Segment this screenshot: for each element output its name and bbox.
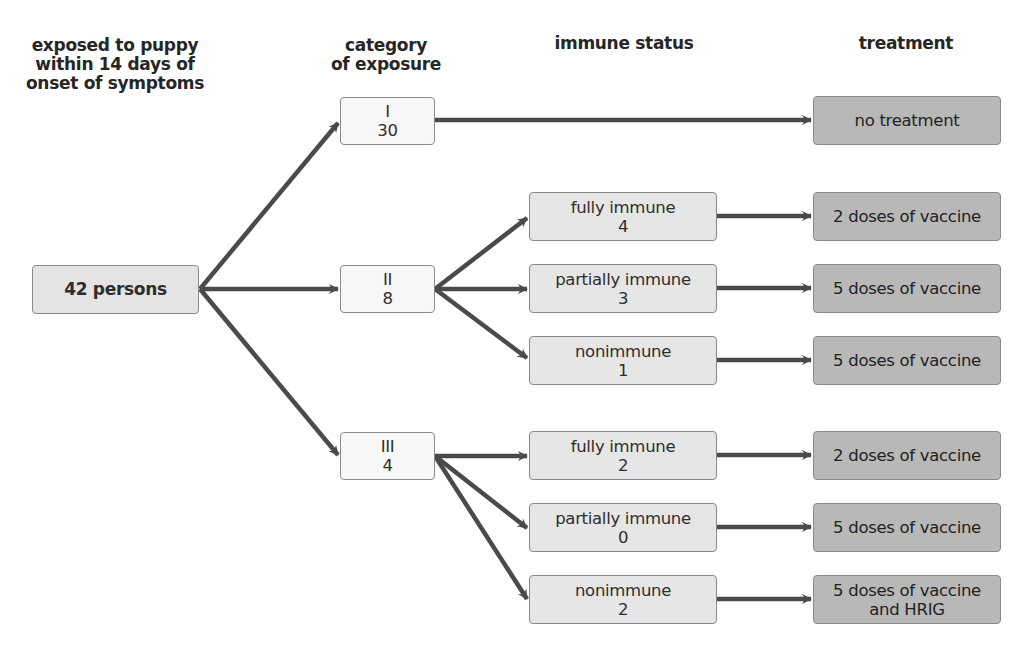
- treatment-label: 5 doses of vaccine: [833, 351, 981, 370]
- immune-status: partially immune: [555, 270, 691, 289]
- immune-status: partially immune: [555, 509, 691, 528]
- treatment-node-4: 5 doses of vaccine: [813, 336, 1001, 385]
- immune-count: 3: [618, 289, 628, 308]
- category-node-ii: II 8: [340, 265, 435, 313]
- arrow-cat-ii-to-nonimmune: [435, 289, 527, 358]
- treatment-label: 5 doses of vaccine: [833, 518, 981, 537]
- root-node: 42 persons: [32, 265, 199, 314]
- treatment-label: no treatment: [855, 111, 960, 130]
- immune-status: fully immune: [571, 437, 676, 456]
- immune-count: 2: [618, 600, 628, 619]
- category-count: 8: [382, 289, 392, 308]
- arrow-cat-iii-to-partially: [435, 456, 527, 528]
- immune-count: 2: [618, 456, 628, 475]
- category-name: III: [381, 437, 395, 456]
- header-category: category of exposure: [306, 36, 466, 74]
- category-count: 30: [377, 121, 397, 140]
- immune-status: nonimmune: [575, 342, 671, 361]
- arrow-root-to-cat-iii: [200, 289, 338, 455]
- immune-node-iii-partially: partially immune 0: [529, 503, 717, 552]
- treatment-label: 2 doses of vaccine: [833, 446, 981, 465]
- immune-count: 1: [618, 361, 628, 380]
- immune-count: 4: [618, 217, 628, 236]
- treatment-node-5: 2 doses of vaccine: [813, 431, 1001, 480]
- immune-node-iii-fully: fully immune 2: [529, 431, 717, 480]
- immune-node-ii-nonimmune: nonimmune 1: [529, 336, 717, 385]
- treatment-node-7: 5 doses of vaccine and HRIG: [813, 575, 1001, 624]
- category-node-i: I 30: [340, 97, 435, 145]
- category-name: I: [385, 102, 390, 121]
- category-count: 4: [382, 456, 392, 475]
- treatment-label: 5 doses of vaccine: [833, 279, 981, 298]
- header-treatment: treatment: [806, 34, 1006, 53]
- arrow-cat-ii-to-fully: [435, 218, 527, 289]
- treatment-node-6: 5 doses of vaccine: [813, 503, 1001, 552]
- treatment-label: 2 doses of vaccine: [833, 207, 981, 226]
- immune-node-ii-fully: fully immune 4: [529, 192, 717, 241]
- arrow-root-to-cat-i: [200, 123, 338, 289]
- immune-count: 0: [618, 528, 628, 547]
- category-name: II: [383, 270, 392, 289]
- treatment-node-3: 5 doses of vaccine: [813, 264, 1001, 313]
- treatment-label-line2: and HRIG: [869, 600, 944, 619]
- root-label: 42 persons: [64, 280, 167, 299]
- treatment-node-1: no treatment: [813, 96, 1001, 145]
- header-immune-status: immune status: [524, 34, 724, 53]
- arrow-cat-iii-to-nonimmune: [435, 456, 527, 599]
- category-node-iii: III 4: [340, 432, 435, 480]
- immune-node-iii-nonimmune: nonimmune 2: [529, 575, 717, 624]
- immune-status: fully immune: [571, 198, 676, 217]
- treatment-node-2: 2 doses of vaccine: [813, 192, 1001, 241]
- treatment-label: 5 doses of vaccine: [833, 581, 981, 600]
- header-exposed: exposed to puppy within 14 days of onset…: [15, 36, 215, 93]
- immune-node-ii-partially: partially immune 3: [529, 264, 717, 313]
- immune-status: nonimmune: [575, 581, 671, 600]
